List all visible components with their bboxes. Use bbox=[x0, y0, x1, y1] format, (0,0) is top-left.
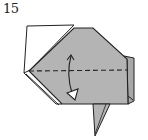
bottom-point bbox=[93, 104, 110, 136]
origami-diagram bbox=[0, 0, 148, 140]
